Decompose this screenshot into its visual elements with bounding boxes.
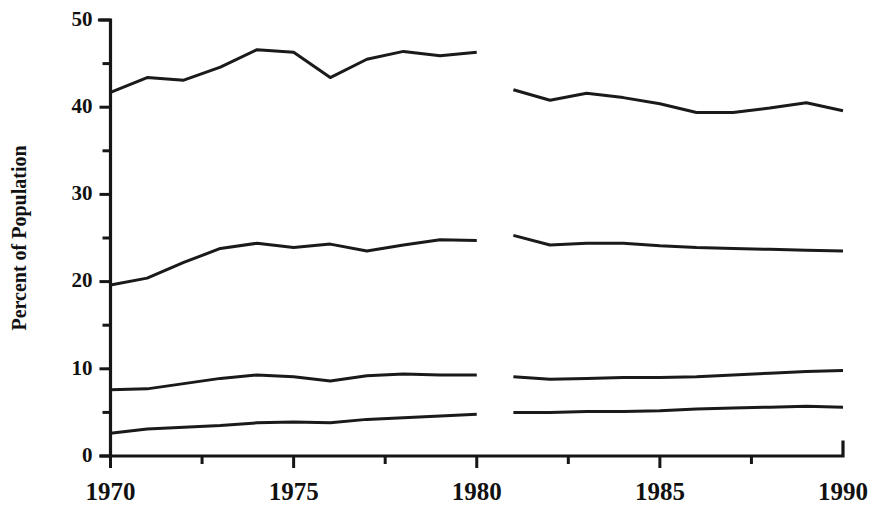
series-line-series-2-segment-0	[111, 240, 477, 285]
axes-group	[100, 20, 844, 456]
x-tick-label: 1975	[269, 478, 319, 505]
x-tick-label: 1970	[86, 478, 136, 505]
y-tick-label: 0	[82, 443, 93, 467]
x-tick-group	[100, 456, 752, 468]
line-chart-svg: 01020304050 19701975198019851990 Percent…	[0, 0, 877, 513]
series-line-series-1-segment-0	[111, 50, 477, 93]
chart-container: 01020304050 19701975198019851990 Percent…	[0, 0, 877, 513]
y-tick-label: 30	[72, 181, 93, 205]
x-tick-label: 1980	[452, 478, 502, 505]
series-line-series-4-segment-0	[111, 414, 477, 433]
x-tick-label: 1990	[818, 478, 868, 505]
series-group	[111, 50, 844, 434]
y-tick-label: 50	[72, 7, 93, 31]
series-line-series-3-segment-1	[513, 371, 843, 380]
y-tick-label-group: 01020304050	[72, 7, 93, 467]
y-axis-title: Percent of Population	[8, 145, 31, 330]
y-tick-label: 10	[72, 356, 93, 380]
y-tick-label: 20	[72, 268, 93, 292]
x-axis-line	[111, 442, 844, 456]
y-tick-label: 40	[72, 94, 93, 118]
series-line-series-1-segment-1	[513, 90, 843, 113]
series-line-series-3-segment-0	[111, 374, 477, 390]
x-tick-label: 1985	[635, 478, 685, 505]
series-line-series-4-segment-1	[513, 406, 843, 412]
x-tick-label-group: 19701975198019851990	[86, 478, 869, 505]
series-line-series-2-segment-1	[513, 235, 843, 251]
y-tick-group	[100, 20, 111, 456]
